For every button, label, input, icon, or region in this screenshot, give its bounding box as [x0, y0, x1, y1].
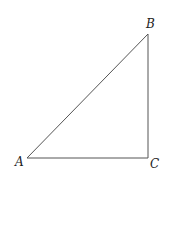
- vertex-label-a: A: [14, 155, 24, 169]
- vertex-label-c: C: [150, 157, 159, 171]
- triangle-diagram: B A C: [0, 0, 185, 236]
- vertex-label-b: B: [145, 17, 155, 31]
- edge-ab: [27, 34, 148, 158]
